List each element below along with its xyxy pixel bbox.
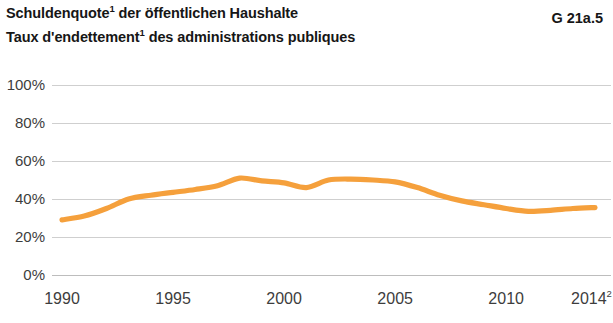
- x-tick-label: 1990: [44, 290, 80, 307]
- chart-figure: Schuldenquote1 der öffentlichen Haushalt…: [0, 0, 613, 323]
- x-tick-label: 2005: [377, 290, 413, 307]
- x-tick-label: 2000: [266, 290, 302, 307]
- y-tick-label: 20%: [15, 228, 45, 245]
- y-tick-label: 0%: [23, 266, 45, 283]
- series-line: [62, 178, 595, 220]
- y-tick-label: 40%: [15, 190, 45, 207]
- x-tick-label: 2010: [488, 290, 524, 307]
- y-tick-label: 80%: [15, 114, 45, 131]
- y-tick-label: 100%: [7, 76, 45, 93]
- x-tick-superscript: 2: [607, 288, 612, 299]
- y-tick-label: 60%: [15, 152, 45, 169]
- x-tick-label: 20142: [571, 288, 612, 307]
- x-tick-label: 1995: [155, 290, 191, 307]
- data-series-group: [62, 178, 595, 220]
- y-axis-tick-labels: 0%20%40%60%80%100%: [7, 76, 45, 283]
- x-axis-tick-labels: 1990199520002005201020142: [44, 288, 612, 307]
- line-chart-plot: 0%20%40%60%80%100% 199019952000200520102…: [0, 0, 613, 323]
